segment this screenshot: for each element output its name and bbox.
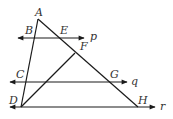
label-E: E bbox=[59, 24, 68, 37]
label-F: F bbox=[79, 40, 88, 53]
label-G: G bbox=[110, 68, 119, 81]
geometry-diagram: A B E F C G D H p q r bbox=[0, 0, 173, 119]
label-p: p bbox=[90, 30, 97, 43]
label-B: B bbox=[24, 24, 33, 37]
segment-AH bbox=[38, 19, 138, 107]
label-q: q bbox=[131, 75, 138, 88]
segment-DF bbox=[21, 53, 75, 107]
label-C: C bbox=[16, 68, 25, 81]
label-A: A bbox=[34, 6, 43, 19]
label-r: r bbox=[160, 100, 166, 113]
label-H: H bbox=[137, 94, 148, 107]
label-D: D bbox=[8, 94, 18, 107]
